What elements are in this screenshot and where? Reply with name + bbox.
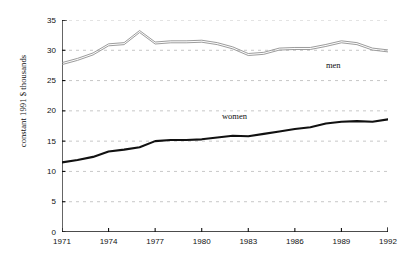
x-tick-label: 1980 — [182, 237, 222, 246]
x-tick-label: 1989 — [321, 237, 361, 246]
x-tick-label: 1974 — [89, 237, 129, 246]
x-tick-label: 1983 — [228, 237, 268, 246]
cropped-title-remnant — [62, 0, 362, 1]
y-tick-label: 0 — [30, 228, 56, 237]
chart-svg — [62, 20, 388, 232]
y-axis-title: constant 1991 $ thousands — [18, 16, 28, 186]
x-tick-label: 1977 — [135, 237, 175, 246]
x-tick-label: 1992 — [368, 237, 407, 246]
chart-container: constant 1991 $ thousands 05101520253035… — [0, 0, 407, 254]
y-tick-label: 10 — [30, 167, 56, 176]
y-tick-label: 25 — [30, 76, 56, 85]
y-tick-label: 30 — [30, 46, 56, 55]
x-tick-label: 1986 — [275, 237, 315, 246]
y-tick-label: 20 — [30, 106, 56, 115]
plot-area — [62, 20, 388, 232]
y-tick-label: 5 — [30, 197, 56, 206]
x-tick-label: 1971 — [42, 237, 82, 246]
y-tick-label: 35 — [30, 16, 56, 25]
series-label-women: women — [222, 111, 247, 121]
series-label-men: men — [326, 60, 341, 70]
y-tick-label: 15 — [30, 137, 56, 146]
